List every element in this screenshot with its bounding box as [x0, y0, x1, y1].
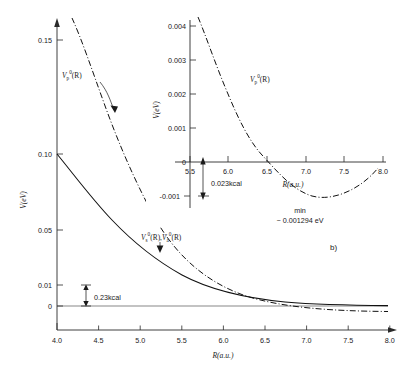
main-ytick-label: 0.05: [38, 226, 52, 235]
inset-gap-annotation: 0.023kcal: [211, 179, 242, 188]
inset-xtick-label: 6.0: [223, 167, 233, 176]
main-xtick-label: 7.0: [302, 336, 312, 345]
main-ytick-label: 0.15: [38, 36, 52, 45]
main-ytick-label: 0.10: [38, 150, 52, 159]
inset-xtick-label: 8.0: [378, 167, 388, 176]
main-ytick-label: 0.01: [38, 281, 52, 290]
main-xtick-label: 6.5: [260, 336, 270, 345]
inset-y-axis-label: V(eV): [152, 101, 161, 119]
svg-text:Vp0(R): Vp0(R): [62, 69, 82, 81]
inset-ytick-label: -0.001: [160, 192, 180, 201]
main-xtick-label: 8.0: [385, 336, 395, 345]
vp-leader-arrowhead: [111, 106, 119, 114]
inset-xtick-label: 7.0: [301, 167, 311, 176]
inset-vp-subscript: p: [255, 79, 258, 85]
inset-ytick-label: 0.004: [168, 22, 186, 31]
vsa-leader-arrowhead: [157, 246, 164, 254]
vs-subscript: s: [146, 237, 148, 243]
svg-text:Vs0(R),Va0(R): Vs0(R),Va0(R): [141, 231, 182, 243]
main-gap-annotation: 0.23kcal: [94, 293, 121, 302]
inset-min-value: − 0.001294 eV: [277, 216, 324, 225]
inset-xtick-label: 7.5: [339, 167, 349, 176]
inset-ytick-label: 0.002: [168, 90, 186, 99]
inset-ytick-label: 0.003: [168, 56, 186, 65]
vs-argument: (R),: [150, 233, 162, 242]
figure-container: 4.0 4.5 5.0 5.5 6.0 6.5 7.0 7.5 8.0 R(a.…: [0, 0, 409, 377]
main-xtick-label: 4.0: [52, 336, 62, 345]
main-y-axis-label: V(eV): [19, 191, 28, 209]
vp-subscript: p: [67, 75, 70, 81]
main-y-axis-arrowhead: [54, 18, 60, 27]
main-ytick-label: 0: [48, 302, 52, 311]
panel-label: b): [330, 243, 337, 252]
inset-xtick-label: 5.5: [185, 167, 195, 176]
inset-ytick-label: 0.001: [168, 124, 186, 133]
svg-text:Vp0(R): Vp0(R): [250, 73, 270, 85]
inset-x-axis-label: R(a.u.): [281, 180, 304, 189]
main-x-axis-arrowhead: [388, 327, 397, 333]
inset-xtick-label: 6.5: [262, 167, 272, 176]
main-xtick-label: 4.5: [94, 336, 104, 345]
main-x-axis-label: R(a.u.): [211, 351, 234, 360]
inset-min-label: min: [294, 206, 306, 215]
inset-background: [146, 14, 398, 226]
inset-axes-group: 0.004 0.003 0.002 0.001 0 -0.001 V(eV) 5…: [146, 14, 398, 226]
inset-vp-argument: (R): [260, 75, 270, 84]
main-xtick-label: 7.5: [343, 336, 353, 345]
main-curve-label-vs-va: Vs0(R),Va0(R): [141, 231, 182, 243]
va-argument: (R): [171, 233, 181, 242]
main-x-ticks: [57, 323, 390, 330]
main-gap-arrow: [81, 285, 91, 307]
inset-curve-label-vp: Vp0(R): [250, 73, 270, 85]
main-xtick-label: 5.5: [177, 336, 187, 345]
main-curve-label-vp: Vp0(R): [62, 69, 82, 81]
main-xtick-label: 5.0: [135, 336, 145, 345]
main-xtick-label: 6.0: [218, 336, 228, 345]
vp-argument: (R): [72, 71, 82, 80]
inset-ytick-label: 0: [182, 158, 186, 167]
plot-svg: 4.0 4.5 5.0 5.5 6.0 6.5 7.0 7.5 8.0 R(a.…: [0, 0, 409, 377]
